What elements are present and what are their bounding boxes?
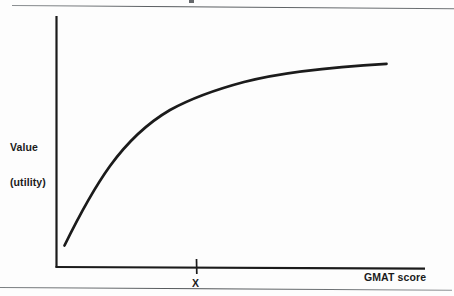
figure-page: Value (utility) X GMAT score: [0, 0, 454, 296]
x-axis-line: [56, 267, 426, 269]
y-axis-label: Value (utility): [10, 119, 46, 211]
y-axis-label-line1: Value: [10, 142, 46, 154]
y-axis-label-line2: (utility): [10, 177, 46, 189]
x-axis-label: GMAT score: [364, 272, 426, 284]
utility-curve-path: [65, 64, 387, 246]
utility-curve-chart: [0, 0, 454, 296]
